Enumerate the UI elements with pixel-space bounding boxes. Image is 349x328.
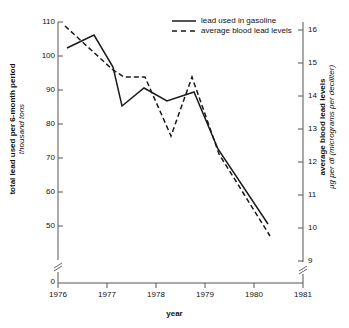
y-axis-right-title-main: average blood lead levels <box>318 79 327 176</box>
y-axis-right-break-icon <box>299 266 307 274</box>
y-axis-left-title-units: thousand tons <box>17 104 26 154</box>
y-tick-label-110: 110 <box>33 17 55 26</box>
y-tick-label-60: 60 <box>33 187 55 196</box>
chart-figure: 110 100 90 80 70 60 50 0 16 15 14 13 12 … <box>0 0 349 328</box>
y-tick-label-90: 90 <box>33 85 55 94</box>
y2-tick-label-9: 9 <box>308 256 330 265</box>
x-tick-label-1981: 1981 <box>283 290 323 299</box>
y-axis-right-title-units: µg per dl (micrograms per deciliter) <box>327 65 336 189</box>
x-axis-ticks <box>58 283 303 288</box>
x-tick-label-1980: 1980 <box>234 290 274 299</box>
legend-label-average-blood-lead-levels: average blood lead levels <box>201 26 292 35</box>
y-axis-left-ticks <box>58 22 63 226</box>
x-axis-title: year <box>0 309 349 318</box>
y-tick-label-80: 80 <box>33 119 55 128</box>
y-tick-label-0: 0 <box>33 277 55 286</box>
x-tick-label-1977: 1977 <box>87 290 127 299</box>
x-tick-label-1976: 1976 <box>38 290 78 299</box>
y-tick-label-70: 70 <box>33 153 55 162</box>
y-axis-right-title: average blood lead levels µg per dl (mic… <box>318 52 336 202</box>
x-tick-label-1979: 1979 <box>185 290 225 299</box>
legend-label-lead-used-in-gasoline: lead used in gasoline <box>201 16 276 25</box>
y-axis-left-title: total lead used per 6-month period thous… <box>8 54 26 204</box>
y-axis-left-break-icon <box>54 263 62 271</box>
y2-tick-label-16: 16 <box>308 25 330 34</box>
series-average-blood-lead-levels <box>65 26 270 236</box>
y-tick-label-50: 50 <box>33 221 55 230</box>
y-axis-left-title-main: total lead used per 6-month period <box>8 63 17 194</box>
y2-tick-label-10: 10 <box>308 223 330 232</box>
x-tick-label-1978: 1978 <box>136 290 176 299</box>
y-tick-label-100: 100 <box>33 51 55 60</box>
y-axis-right-ticks <box>298 30 303 261</box>
